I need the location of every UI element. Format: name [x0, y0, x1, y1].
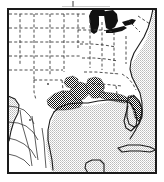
interior-mark-2 — [47, 83, 49, 85]
interior-mark-1 — [29, 119, 31, 121]
map-canvas — [0, 0, 164, 182]
distribution-map-figure: Southeastern United States, Gulf of Mexi… — [0, 0, 164, 182]
map-body — [8, 9, 156, 173]
